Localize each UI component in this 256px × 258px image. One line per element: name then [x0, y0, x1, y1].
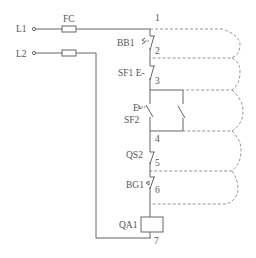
terminal-l1: L1 [16, 24, 36, 34]
fuse-l2 [36, 50, 151, 238]
svg-text:BB1: BB1 [117, 38, 135, 48]
node-6: 6 [155, 185, 160, 195]
svg-text:E-: E- [133, 103, 142, 113]
node-7: 7 [154, 236, 159, 246]
svg-text:L2: L2 [16, 49, 27, 59]
node-1: 1 [155, 13, 160, 23]
node-5: 5 [155, 158, 160, 168]
circuit-diagram: L1 FC L2 1 BB1 2 SF1 E- [0, 0, 256, 258]
fuse-fc: FC [36, 14, 150, 32]
coil-qa1: QA1 [119, 217, 163, 238]
contact-qs2: QS2 [126, 150, 155, 171]
node-4: 4 [155, 134, 160, 144]
terminal-l2: L2 [16, 49, 36, 59]
svg-text:QA1: QA1 [119, 220, 138, 230]
dashed-loops [150, 29, 243, 204]
limit-switch-bg1: BG1 [126, 177, 155, 204]
pushbutton-sf1: SF1 E- [118, 66, 155, 90]
svg-text:L1: L1 [16, 24, 27, 34]
svg-text:SF1 E-: SF1 E- [118, 68, 145, 78]
svg-text:QS2: QS2 [126, 150, 143, 160]
svg-text:SF2: SF2 [124, 115, 140, 125]
start-branch: E- SF2 [124, 90, 185, 131]
svg-text:FC: FC [63, 14, 75, 24]
svg-text:BG1: BG1 [126, 180, 144, 190]
node-2: 2 [155, 46, 160, 56]
node-3: 3 [155, 76, 160, 86]
contact-bb1: BB1 [117, 29, 155, 58]
